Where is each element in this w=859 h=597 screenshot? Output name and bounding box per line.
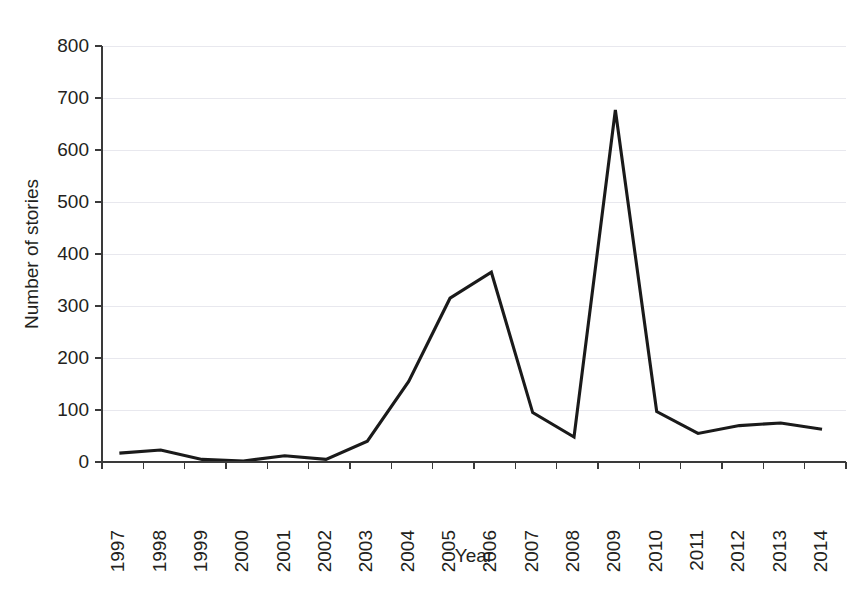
line-chart-figure: 0100200300400500600700800 19971998199920… [0,0,859,597]
x-tick-label-2004: 2004 [397,530,418,573]
y-tick-label-100: 100 [57,399,89,420]
y-tick-label-300: 300 [57,295,89,316]
y-tick-label-400: 400 [57,243,89,264]
chart-canvas: 0100200300400500600700800 19971998199920… [0,0,859,597]
x-tick-label-1997: 1997 [107,530,128,572]
y-tick-label-800: 800 [57,35,89,56]
x-tick-label-2014: 2014 [810,530,831,573]
figure-background [0,0,859,597]
y-tick-label-700: 700 [57,87,89,108]
y-tick-label-500: 500 [57,191,89,212]
y-tick-label-200: 200 [57,347,89,368]
x-tick-label-2012: 2012 [727,530,748,572]
x-tick-label-2000: 2000 [231,530,252,572]
x-tick-label-2010: 2010 [645,530,666,572]
y-tick-label-0: 0 [78,451,89,472]
x-tick-label-2011: 2011 [686,530,707,571]
y-tick-label-600: 600 [57,139,89,160]
x-tick-label-2003: 2003 [355,530,376,572]
x-tick-label-2001: 2001 [273,530,294,572]
x-tick-label-2002: 2002 [314,530,335,572]
x-tick-label-2008: 2008 [562,530,583,572]
x-tick-label-1999: 1999 [190,530,211,572]
x-axis-title: Year [455,545,494,566]
y-axis-title: Number of stories [21,179,42,329]
x-tick-label-1998: 1998 [149,530,170,572]
x-tick-label-2007: 2007 [521,530,542,572]
x-tick-label-2013: 2013 [769,530,790,572]
x-tick-label-2009: 2009 [603,530,624,572]
